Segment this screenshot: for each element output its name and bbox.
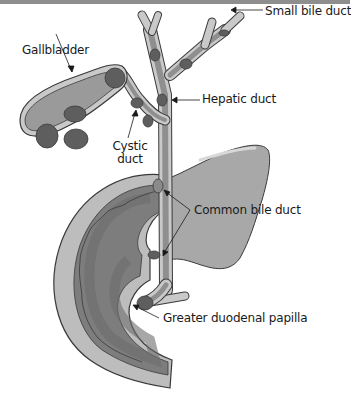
label-gallbladder: Gallbladder [22,44,89,57]
label-small-bile-duct: Small bile duct [265,5,351,18]
duodenum [54,174,172,388]
label-cystic-duct: Cystic duct [110,140,150,166]
label-hepatic-duct: Hepatic duct [202,93,276,106]
label-cystic-duct-line2: duct [110,153,150,166]
label-greater-duodenal-papilla: Greater duodenal papilla [163,312,307,325]
label-common-bile-duct: Common bile duct [194,204,301,217]
